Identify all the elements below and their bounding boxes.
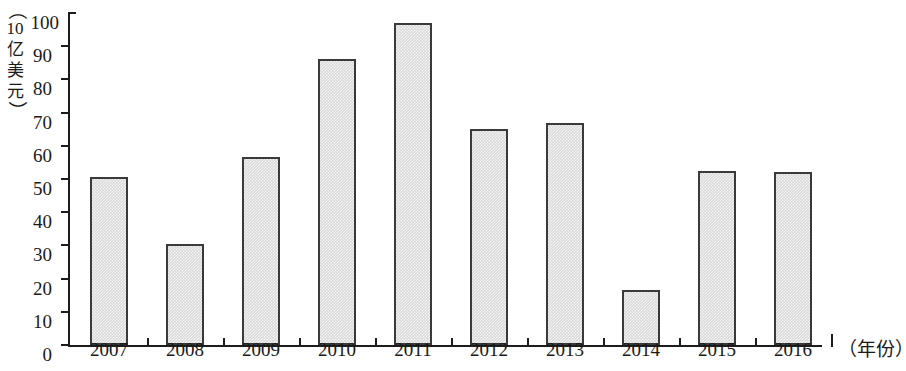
x-tick-2008 bbox=[223, 338, 225, 347]
y-tick-label-50: 50 bbox=[33, 179, 52, 180]
y-tick-90: 90 bbox=[61, 45, 69, 47]
x-axis-label-2010: 2010 bbox=[318, 340, 356, 359]
y-tick-30: 30 bbox=[61, 244, 69, 246]
x-tick-2011 bbox=[451, 338, 453, 347]
y-tick-100: 100 bbox=[68, 12, 76, 14]
x-axis-label-2012: 2012 bbox=[470, 340, 508, 359]
y-tick-80: 80 bbox=[61, 78, 69, 80]
y-tick-label-70: 70 bbox=[33, 112, 52, 113]
y-tick-20: 20 bbox=[61, 278, 69, 280]
x-axis-label-2011: 2011 bbox=[394, 340, 431, 359]
x-axis-caption: （年份） bbox=[838, 340, 906, 359]
x-axis-label-2016: 2016 bbox=[774, 340, 812, 359]
y-tick-0: 0 bbox=[61, 344, 69, 346]
y-tick-label-30: 30 bbox=[33, 245, 52, 246]
plot-area: 0102030405060708090100 bbox=[68, 13, 822, 347]
y-caption-char-yi: 亿 bbox=[2, 39, 28, 60]
bar-2015 bbox=[698, 171, 736, 345]
x-axis-label-2015: 2015 bbox=[698, 340, 736, 359]
x-axis-label-2014: 2014 bbox=[622, 340, 660, 359]
y-tick-60: 60 bbox=[61, 145, 69, 147]
x-tick-2012 bbox=[527, 338, 529, 347]
y-axis-line bbox=[68, 13, 70, 347]
x-tick-2015 bbox=[755, 338, 757, 347]
bar-2009 bbox=[242, 157, 280, 345]
x-axis-end-tick bbox=[831, 334, 833, 347]
bar-2012 bbox=[470, 129, 508, 345]
y-tick-40: 40 bbox=[61, 211, 69, 213]
x-axis-label-2013: 2013 bbox=[546, 340, 584, 359]
x-tick-2009 bbox=[299, 338, 301, 347]
x-tick-2014 bbox=[679, 338, 681, 347]
y-tick-label-100: 100 bbox=[31, 13, 60, 14]
y-caption-char-mei: 美 bbox=[2, 60, 28, 81]
y-tick-70: 70 bbox=[61, 112, 69, 114]
bar-2007 bbox=[90, 177, 128, 345]
bar-2011 bbox=[394, 23, 432, 345]
y-caption-paren-open: （ bbox=[7, 0, 23, 23]
y-tick-label-40: 40 bbox=[33, 212, 52, 213]
y-tick-label-10: 10 bbox=[33, 311, 52, 312]
bar-2008 bbox=[166, 244, 204, 345]
y-tick-label-60: 60 bbox=[33, 145, 52, 146]
y-tick-label-20: 20 bbox=[33, 278, 52, 279]
x-tick-2010 bbox=[375, 338, 377, 347]
bar-2016 bbox=[774, 172, 812, 345]
y-tick-10: 10 bbox=[61, 311, 69, 313]
y-tick-label-90: 90 bbox=[33, 46, 52, 47]
x-tick-2013 bbox=[603, 338, 605, 347]
bar-2013 bbox=[546, 123, 584, 345]
bar-2010 bbox=[318, 59, 356, 345]
y-tick-50: 50 bbox=[61, 178, 69, 180]
x-axis-label-2009: 2009 bbox=[242, 340, 280, 359]
y-tick-label-0: 0 bbox=[43, 345, 53, 346]
y-tick-label-80: 80 bbox=[33, 79, 52, 80]
bar-2014 bbox=[622, 290, 660, 345]
y-axis-caption: （ 10 亿 美 元 ） bbox=[2, 2, 28, 118]
x-axis-label-2007: 2007 bbox=[90, 340, 128, 359]
x-tick-2007 bbox=[147, 338, 149, 347]
y-caption-paren-close: ） bbox=[7, 97, 23, 123]
x-axis-label-2008: 2008 bbox=[166, 340, 204, 359]
